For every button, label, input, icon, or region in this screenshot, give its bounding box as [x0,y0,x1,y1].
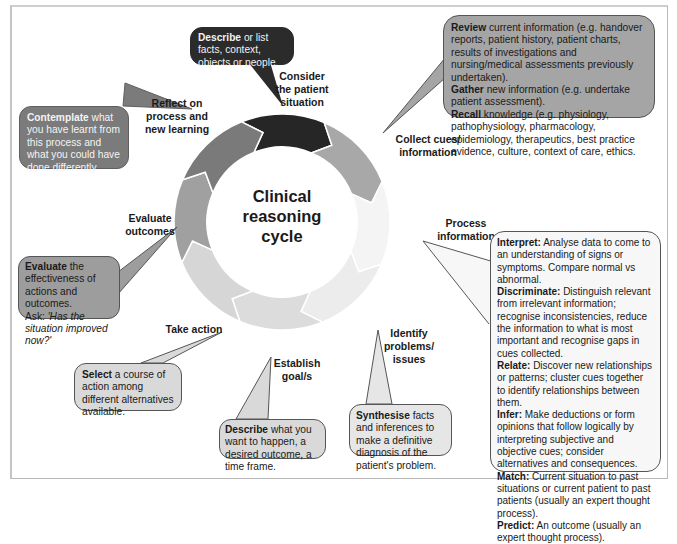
stage-label-identify: Identify problems/ issues [374,327,444,366]
callout-paragraph: Gather new information (e.g. undertake p… [451,84,647,109]
stage-label-evaluate: Evaluate outcomes [115,212,185,238]
callout-paragraph: Predict: An outcome (usually an expert t… [497,520,654,544]
callout-paragraph: Interpret: Analyse data to come to an un… [497,237,654,286]
callout-paragraph: Describe or list facts, context, objects… [198,32,286,69]
callout-paragraph: Relate: Discover new relationships or pa… [497,360,654,409]
callout-reflect: Contemplate what you have learnt from th… [19,106,129,169]
title-line: cycle [222,226,342,246]
stage-label-consider: Consider the patient situation [262,70,342,109]
callout-paragraph: Ask: 'Has the situation improved now?' [25,311,113,348]
title-line: Clinical [222,186,342,206]
callout-identify: Synthesise facts and inferences to make … [349,404,452,456]
title-line: reasoning [222,206,342,226]
callout-paragraph: Infer: Make deductions or form opinions … [497,409,654,470]
callout-collect: Review current information (e.g. handove… [443,15,655,118]
stage-label-establish: Establish goal/s [262,357,332,383]
callout-paragraph: Select a course of action among differen… [82,369,174,419]
callout-establish: Describe what you want to happen, a desi… [219,419,326,459]
callout-paragraph: Evaluate the effectiveness of actions an… [25,261,113,311]
callout-process: Interpret: Analyse data to come to an un… [490,231,661,472]
cycle-title: Clinical reasoning cycle [222,186,342,246]
callout-paragraph: Review current information (e.g. handove… [451,22,647,84]
callout-take-action: Select a course of action among differen… [74,363,182,411]
callout-paragraph: Discriminate: Distinguish relevant from … [497,286,654,360]
callout-consider: Describe or list facts, context, objects… [190,27,294,65]
callout-paragraph: Describe what you want to happen, a desi… [225,424,320,474]
pointer-take-action [141,332,222,363]
callout-paragraph: Contemplate what you have learnt from th… [27,112,121,174]
callout-paragraph: Match: Current situation to past situati… [497,471,654,520]
callout-paragraph: Recall knowledge (e.g. physiology, patho… [451,109,647,159]
stage-label-reflect: Reflect on process and new learning [138,97,216,136]
callout-evaluate: Evaluate the effectiveness of actions an… [18,256,120,319]
callout-paragraph: Synthesise facts and inferences to make … [356,410,445,472]
stage-label-take-action: Take action [154,323,234,336]
